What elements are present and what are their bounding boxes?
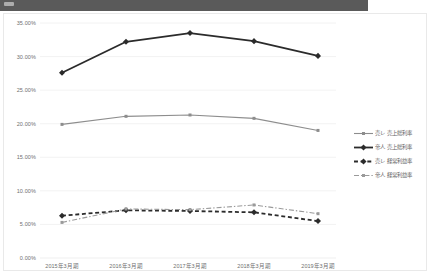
legend-swatch-icon [354, 171, 373, 180]
y-tick-label: 35.00% [17, 20, 36, 26]
y-tick-label: 0.00% [20, 255, 36, 261]
plot-area [40, 23, 336, 258]
x-axis-labels: 2015年3月期2016年3月期2017年3月期2018年3月期2019年3月期 [40, 262, 336, 274]
chart-legend: 売レ 売上総利率帝人 売上総利率売レ 経常利益率帝人 経常利益率 [354, 126, 426, 182]
screenshot-root: 0.00%5.00%10.00%15.00%20.00%25.00%30.00%… [0, 0, 433, 276]
data-point [189, 208, 192, 211]
legend-label: 帝人 経常利益率 [375, 171, 412, 179]
series-layer [40, 23, 336, 258]
window-header-bar [0, 0, 368, 11]
legend-swatch-icon [354, 143, 373, 152]
x-tick-label: 2015年3月期 [45, 262, 78, 270]
x-tick-label: 2016年3月期 [109, 262, 142, 270]
data-point [189, 113, 192, 116]
data-point [125, 115, 128, 118]
data-point [61, 123, 64, 126]
legend-label: 売レ 経常利益率 [375, 157, 412, 165]
legend-label: 帝人 売上総利率 [375, 143, 412, 151]
gridlines [40, 23, 336, 258]
data-point [251, 38, 257, 44]
series-lines [62, 33, 318, 222]
data-point [253, 203, 256, 206]
data-point [187, 30, 193, 36]
series-line-0 [62, 115, 318, 130]
data-point [61, 221, 64, 224]
data-point [315, 53, 321, 59]
y-tick-label: 15.00% [17, 154, 36, 160]
legend-item-0[interactable]: 売レ 売上総利率 [354, 126, 426, 140]
legend-swatch-icon [354, 129, 373, 138]
x-tick-label: 2017年3月期 [173, 262, 206, 270]
data-point [317, 212, 320, 215]
data-point [253, 117, 256, 120]
x-tick-label: 2019年3月期 [301, 262, 334, 270]
chart-card: 0.00%5.00%10.00%15.00%20.00%25.00%30.00%… [3, 13, 427, 271]
series-line-1 [62, 33, 318, 73]
data-point [315, 218, 321, 224]
data-point [317, 129, 320, 132]
y-axis-labels: 0.00%5.00%10.00%15.00%20.00%25.00%30.00%… [4, 23, 38, 258]
legend-item-1[interactable]: 帝人 売上総利率 [354, 140, 426, 154]
legend-label: 売レ 売上総利率 [375, 129, 412, 137]
data-point [125, 207, 128, 210]
legend-item-2[interactable]: 売レ 経常利益率 [354, 154, 426, 168]
y-tick-label: 10.00% [17, 188, 36, 194]
x-tick-label: 2018年3月期 [237, 262, 270, 270]
data-point [59, 213, 65, 219]
y-tick-label: 30.00% [17, 54, 36, 60]
legend-swatch-icon [354, 157, 373, 166]
y-tick-label: 5.00% [20, 221, 36, 227]
data-point [123, 39, 129, 45]
series-markers [59, 30, 321, 224]
data-point [59, 70, 65, 76]
y-tick-label: 20.00% [17, 121, 36, 127]
legend-item-3[interactable]: 帝人 経常利益率 [354, 168, 426, 182]
data-point [251, 209, 257, 215]
header-logo-mark [4, 2, 14, 6]
y-tick-label: 25.00% [17, 87, 36, 93]
